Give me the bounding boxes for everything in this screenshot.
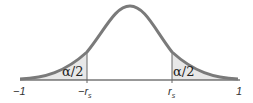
tick-minus-rs-sub: s	[88, 92, 92, 99]
tick-rs-sub: s	[172, 92, 176, 99]
tick-minus-one: −1	[13, 86, 26, 97]
bell-curve-diagram	[0, 0, 253, 103]
normal-curve	[20, 6, 238, 79]
tick-minus-rs: −rs	[78, 86, 92, 99]
tick-one: 1	[236, 86, 242, 97]
right-alpha-label: α/2	[173, 65, 194, 78]
left-alpha-label: α/2	[62, 65, 83, 78]
tick-rs: rs	[168, 86, 175, 99]
tick-minus-rs-text: −r	[78, 85, 88, 97]
